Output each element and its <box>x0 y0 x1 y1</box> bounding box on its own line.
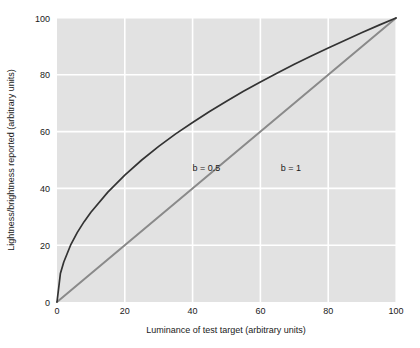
curve-label: b = 1 <box>281 163 301 173</box>
y-tick-label: 40 <box>40 184 50 194</box>
x-tick-label: 40 <box>188 306 198 316</box>
y-tick-label: 0 <box>45 298 50 308</box>
x-tick-label: 0 <box>54 306 59 316</box>
y-axis-title: Lightness/brightness reported (arbitrary… <box>6 69 16 251</box>
x-tick-label: 20 <box>120 306 130 316</box>
x-tick-label: 80 <box>323 306 333 316</box>
y-tick-label: 60 <box>40 127 50 137</box>
y-tick-label: 100 <box>35 14 50 24</box>
x-tick-label: 100 <box>388 306 403 316</box>
y-tick-label: 80 <box>40 70 50 80</box>
curve-label: b = 0.5 <box>193 163 221 173</box>
psychophysics-power-function-chart: 020406080100 020406080100 Luminance of t… <box>0 0 420 348</box>
y-tick-label: 20 <box>40 241 50 251</box>
x-axis-title: Luminance of test target (arbitrary unit… <box>146 325 306 335</box>
x-tick-label: 60 <box>255 306 265 316</box>
